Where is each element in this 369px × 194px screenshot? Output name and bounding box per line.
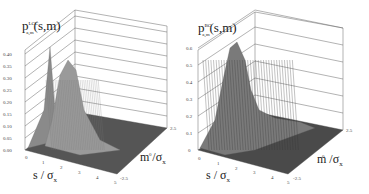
svg-text:0.15: 0.15 [3, 112, 12, 117]
left-surface-plot: 0.00 0.05 0.10 0.15 0.20 0.25 0.30 0.35 … [0, 0, 185, 194]
svg-text:0: 0 [198, 156, 201, 161]
svg-text:3: 3 [78, 170, 81, 175]
svg-text:0.35: 0.35 [3, 64, 12, 69]
svg-text:2: 2 [235, 166, 238, 171]
svg-text:2: 2 [60, 165, 63, 170]
svg-text:2.5: 2.5 [170, 126, 177, 131]
svg-text:0.2: 0.2 [186, 114, 193, 119]
svg-text:0.30: 0.30 [3, 76, 12, 81]
svg-text:5: 5 [114, 180, 117, 185]
left-s-axis-label: s / σx [33, 168, 57, 184]
right-m-axis-label: m /σx [317, 152, 343, 168]
right-s-axis-label: s / σx [206, 168, 230, 184]
svg-text:-2.5: -2.5 [293, 176, 301, 181]
svg-text:0.5: 0.5 [186, 63, 193, 68]
svg-text:3: 3 [253, 170, 256, 175]
svg-text:4: 4 [96, 175, 99, 180]
svg-text:5: 5 [287, 180, 290, 185]
svg-text:0.1: 0.1 [186, 131, 193, 136]
svg-text:0.40: 0.40 [3, 52, 12, 57]
left-m-axis-label: m /σx [140, 150, 166, 166]
svg-text:0: 0 [25, 155, 28, 160]
left-plot-title: pLCCa,m(s,m) [22, 18, 61, 35]
svg-text:1: 1 [42, 160, 45, 165]
svg-text:4: 4 [271, 175, 274, 180]
svg-text:0.20: 0.20 [3, 100, 12, 105]
svg-text:0.00: 0.00 [3, 148, 12, 153]
right-plot-title: pBCa,m(s,m) [198, 20, 237, 37]
svg-text:0.10: 0.10 [3, 124, 12, 129]
svg-text:0.6: 0.6 [186, 46, 193, 51]
left-z-ticks: 0.00 0.05 0.10 0.15 0.20 0.25 0.30 0.35 … [3, 52, 12, 153]
svg-text:0: 0 [188, 148, 191, 153]
svg-text:0.25: 0.25 [3, 88, 12, 93]
right-z-ticks: 0 0.1 0.2 0.3 0.4 0.5 0.6 [186, 46, 193, 153]
svg-text:0.4: 0.4 [186, 80, 193, 85]
svg-text:0.3: 0.3 [186, 97, 193, 102]
svg-text:0.05: 0.05 [3, 136, 12, 141]
right-surface-plot: 0 0.1 0.2 0.3 0.4 0.5 0.6 0 1 2 3 4 5 -2… [185, 0, 369, 194]
svg-text:-2.5: -2.5 [120, 176, 128, 181]
svg-text:2.5: 2.5 [346, 128, 353, 133]
svg-text:1: 1 [217, 161, 220, 166]
